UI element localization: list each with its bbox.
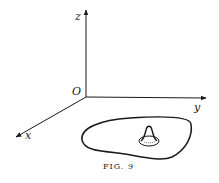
figure-caption: FIG. 9 [103, 163, 134, 171]
origin-label: O [72, 86, 81, 97]
figure-diagram [0, 0, 219, 183]
region-boundary-curve [82, 117, 191, 159]
z-axis-label: z [75, 11, 81, 22]
y-axis-label: y [194, 102, 200, 113]
bump-surface [139, 126, 159, 146]
y-axis [86, 97, 206, 98]
x-axis-label: x [25, 130, 31, 141]
